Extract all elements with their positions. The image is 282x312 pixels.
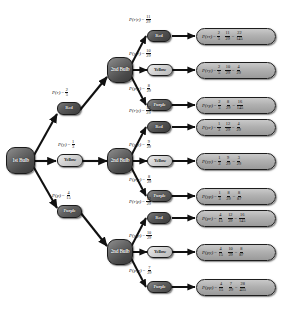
- node-2nd-bulb-bottom[interactable]: 2nd Bulb: [107, 239, 133, 265]
- result-p1-den-pp: 15: [218, 288, 223, 292]
- node-second-red-b3[interactable]: Red: [147, 212, 171, 224]
- result-label-rp: P(rp): [202, 103, 213, 108]
- cond-text-b3-red: P(r|p): [129, 199, 141, 204]
- prob-den-first-red: 5: [65, 93, 68, 97]
- node-second-purple-b3-label: Purple: [153, 285, 165, 290]
- node-first-yellow[interactable]: Yellow: [57, 154, 83, 167]
- prob-label-first-purple: P(p)=415: [52, 191, 72, 201]
- result-den-pp: 435: [239, 288, 246, 292]
- edge-purple-bulb2: [80, 212, 107, 246]
- cond-text-b1-yellow: P(y|r): [129, 51, 141, 56]
- prob-text-first-red: P(r): [52, 90, 60, 95]
- result-box-yr[interactable]: P(yr)=13 1229=429: [196, 119, 276, 136]
- cond-text-b2-purple: P(p|y): [129, 177, 141, 182]
- result-box-yp[interactable]: P(yp)=13 829=887: [196, 188, 276, 205]
- result-label-pp: P(pp): [202, 285, 213, 290]
- cond-den-b2-purple: 29: [146, 180, 151, 184]
- cond-label-b3-red: P(r|p)=1229: [129, 197, 152, 207]
- node-2nd-bulb-middle[interactable]: 2nd Bulb: [107, 148, 133, 174]
- result-p2-den-yp: 29: [226, 197, 231, 201]
- result-label-yp: P(yp): [202, 194, 213, 199]
- node-first-yellow-label: Yellow: [64, 158, 76, 163]
- result-p2-den-yy: 29: [226, 162, 231, 166]
- prob-label-first-yellow: P(y)=13: [58, 140, 75, 150]
- result-den-yy: 29: [236, 162, 241, 166]
- result-p2-den-yr: 29: [225, 128, 230, 132]
- edge-red-bulb2: [80, 77, 107, 110]
- result-p2-den-rr: 29: [225, 37, 230, 41]
- result-den-rr: 145: [236, 37, 243, 41]
- cond-den-b2-yellow: 29: [146, 145, 151, 149]
- result-box-rp[interactable]: P(rp)=25 829=16145: [196, 97, 276, 114]
- result-label-py: P(py): [202, 250, 213, 255]
- node-second-red-b1[interactable]: Red: [147, 30, 171, 42]
- cond-text-b1-purple: P(p|r): [129, 86, 141, 91]
- result-p2-den-pr: 29: [228, 219, 233, 223]
- result-p1-den-rr: 5: [217, 37, 220, 41]
- cond-label-b2-yellow: P(y|y)=929: [129, 140, 152, 150]
- prob-text-first-yellow: P(y): [58, 142, 67, 147]
- node-second-purple-b2-label: Purple: [153, 194, 165, 199]
- node-second-purple-b3[interactable]: Purple: [147, 281, 172, 293]
- result-den-py: 87: [239, 253, 244, 257]
- prob-text-first-purple: P(p): [52, 193, 61, 198]
- node-first-purple-label: Purple: [63, 209, 75, 214]
- cond-label-b3-yellow: P(y|p)=1029: [129, 231, 152, 241]
- result-box-ry[interactable]: P(ry)=25 1029=429: [196, 62, 276, 79]
- result-p1-den-pr: 15: [218, 219, 223, 223]
- node-second-red-b1-label: Red: [155, 34, 162, 39]
- prob-label-first-red: P(r)=25: [52, 88, 69, 98]
- node-root-label: 1st Bulb: [12, 158, 29, 163]
- result-den-pr: 145: [238, 219, 245, 223]
- result-p2-den-pp: 29: [228, 288, 233, 292]
- probability-tree-diagram: 1st Bulb Red Yellow Purple P(r)=25 P(y)=…: [0, 0, 282, 312]
- cond-text-b3-purple: P(p|p): [129, 268, 142, 273]
- result-den-rp: 145: [236, 106, 243, 110]
- result-box-yy[interactable]: P(yy)=13 929=329: [196, 153, 276, 170]
- cond-den-b1-yellow: 29: [146, 54, 151, 58]
- cond-text-b2-yellow: P(y|y): [129, 142, 141, 147]
- node-2nd-bulb-top-label: 2nd Bulb: [111, 67, 130, 72]
- cond-label-b1-red: P(r|r)=1129: [129, 15, 151, 25]
- result-label-yr: P(yr): [202, 125, 213, 130]
- result-p1-den-py: 15: [218, 253, 223, 257]
- result-box-pp[interactable]: P(pp)=415 729=28435: [196, 279, 276, 296]
- cond-den-b2-red: 29: [146, 111, 151, 115]
- result-label-ry: P(ry): [202, 68, 213, 73]
- node-first-red[interactable]: Red: [57, 102, 81, 115]
- cond-text-b1-red: P(r|r): [129, 17, 141, 22]
- node-2nd-bulb-bottom-label: 2nd Bulb: [111, 249, 130, 254]
- prob-den-first-purple: 15: [66, 196, 71, 200]
- result-p1-den-ry: 5: [217, 71, 220, 75]
- cond-den-b3-red: 29: [146, 202, 151, 206]
- node-second-red-b3-label: Red: [155, 216, 162, 221]
- result-box-rr[interactable]: P(rr)=25 1129=22145: [196, 28, 276, 45]
- result-p1-den-yr: 3: [217, 128, 220, 132]
- node-second-red-b2[interactable]: Red: [147, 121, 171, 133]
- node-root-1st-bulb[interactable]: 1st Bulb: [6, 147, 35, 174]
- edge-root-red: [33, 114, 57, 157]
- cond-label-b1-yellow: P(y|r)=1029: [129, 49, 152, 59]
- node-first-purple[interactable]: Purple: [57, 205, 82, 218]
- result-label-yy: P(yy): [202, 159, 213, 164]
- result-box-pr[interactable]: P(pr)=415 1229=16145: [196, 210, 276, 227]
- node-second-purple-b1-label: Purple: [153, 103, 165, 108]
- node-second-yellow-b2-label: Yellow: [154, 159, 166, 164]
- node-2nd-bulb-middle-label: 2nd Bulb: [111, 158, 130, 163]
- node-second-yellow-b3[interactable]: Yellow: [147, 246, 173, 258]
- result-p1-den-rp: 5: [218, 106, 221, 110]
- result-p1-den-yy: 3: [218, 162, 221, 166]
- cond-label-b2-purple: P(p|y)=829: [129, 175, 152, 185]
- edge-root-purple: [33, 166, 57, 208]
- node-second-yellow-b2[interactable]: Yellow: [147, 155, 173, 167]
- node-second-yellow-b1-label: Yellow: [154, 68, 166, 73]
- node-first-red-label: Red: [65, 106, 72, 111]
- result-p2-den-py: 29: [228, 253, 233, 257]
- result-box-py[interactable]: P(py)=415 1029=887: [196, 244, 276, 261]
- cond-label-b1-purple: P(p|r)=829: [129, 84, 152, 94]
- result-den-ry: 29: [236, 71, 241, 75]
- node-second-yellow-b1[interactable]: Yellow: [147, 64, 173, 76]
- prob-den-first-yellow: 3: [72, 145, 75, 149]
- result-p1-den-yp: 3: [218, 197, 221, 201]
- node-2nd-bulb-top[interactable]: 2nd Bulb: [107, 57, 133, 83]
